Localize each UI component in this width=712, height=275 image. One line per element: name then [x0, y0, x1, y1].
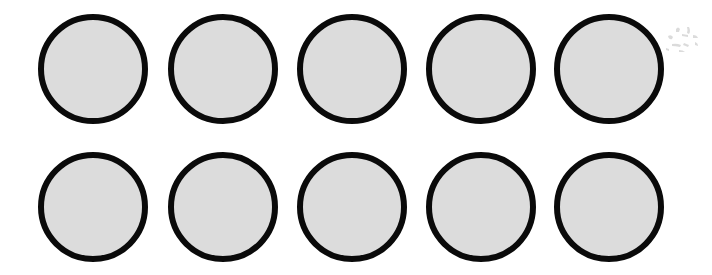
circle-r2-c1 [38, 152, 148, 262]
circle-r1-c4 [426, 14, 536, 124]
image-canvas [0, 0, 712, 275]
circle-r1-c3 [297, 14, 407, 124]
circle-r2-c5 [554, 152, 664, 262]
scan-smudge-artifact [662, 22, 704, 56]
circle-r1-c2 [168, 14, 278, 124]
circle-r1-c5 [554, 14, 664, 124]
circle-r2-c4 [426, 152, 536, 262]
circle-r2-c2 [168, 152, 278, 262]
circle-r2-c3 [297, 152, 407, 262]
circle-r1-c1 [38, 14, 148, 124]
